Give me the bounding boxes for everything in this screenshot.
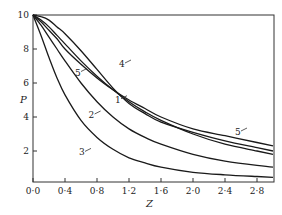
y-tick-label: 2	[23, 146, 29, 156]
y-axis-label: P	[19, 94, 27, 105]
curve-label: 3	[79, 147, 85, 157]
x-tick-label: 0·0	[26, 186, 41, 196]
x-tick-label: 1·6	[154, 186, 169, 196]
curve-3	[33, 15, 273, 177]
y-tick-label: 8	[23, 44, 29, 54]
x-tick-label: 0·8	[90, 186, 105, 196]
curve-label: 5	[75, 68, 81, 78]
x-tick-label: 2·0	[186, 186, 201, 196]
curve-label: 4	[119, 59, 125, 69]
curves	[33, 15, 273, 177]
y-axis: 246810	[18, 10, 37, 156]
x-axis-label: Z	[145, 198, 154, 209]
x-tick-label: 2·8	[250, 186, 265, 196]
y-tick-label: 10	[18, 10, 30, 20]
line-chart: 246810 0·00·40·81·21·62·02·42·8 P Z 1234…	[0, 0, 282, 215]
y-tick-label: 4	[23, 112, 29, 122]
curve-label: 1	[115, 95, 121, 105]
curve-label: 5	[235, 127, 241, 137]
plot-frame	[33, 15, 274, 182]
x-tick-label: 0·4	[58, 186, 73, 196]
x-tick-label: 2·4	[218, 186, 233, 196]
curve-label: 2	[89, 110, 95, 120]
x-axis: 0·00·40·81·21·62·02·42·8	[26, 178, 265, 196]
x-tick-label: 1·2	[122, 186, 136, 196]
y-tick-label: 6	[23, 78, 29, 88]
